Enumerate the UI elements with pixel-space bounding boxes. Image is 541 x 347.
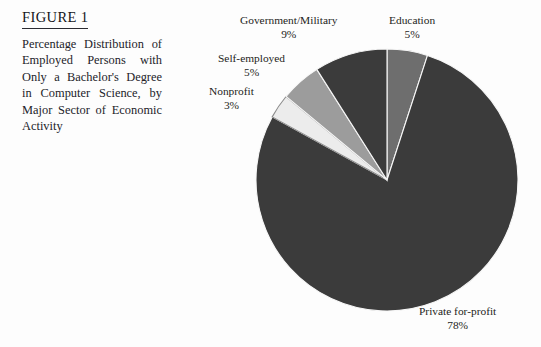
pie-label-government-military-name: Government/Military [240, 14, 337, 26]
pie-label-government-military-value: 9% [240, 28, 337, 42]
pie-label-nonprofit-value: 3% [209, 99, 254, 113]
pie-label-nonprofit: Nonprofit 3% [209, 85, 254, 112]
figure-page: FIGURE 1 Percentage Distribution of Empl… [0, 0, 541, 347]
pie-label-self-employed-name: Self-employed [218, 52, 285, 64]
pie-label-private-for-profit: Private for-profit 78% [419, 305, 496, 332]
pie-label-education-value: 5% [389, 28, 435, 42]
figure-number-label: FIGURE 1 [22, 9, 88, 29]
pie-label-education-name: Education [389, 14, 435, 26]
pie-slices [256, 49, 518, 311]
figure-caption-block: FIGURE 1 Percentage Distribution of Empl… [22, 8, 172, 134]
pie-label-government-military: Government/Military 9% [240, 14, 337, 41]
figure-caption-text: Percentage Distribution of Employed Pers… [22, 36, 162, 134]
pie-label-private-for-profit-name: Private for-profit [419, 305, 496, 317]
pie-label-self-employed: Self-employed 5% [218, 52, 285, 79]
pie-label-self-employed-value: 5% [218, 66, 285, 80]
pie-label-nonprofit-name: Nonprofit [209, 85, 254, 97]
pie-label-private-for-profit-value: 78% [419, 319, 496, 333]
pie-label-education: Education 5% [389, 14, 435, 41]
pie-chart: Government/Military 9% Education 5% Self… [176, 0, 541, 347]
